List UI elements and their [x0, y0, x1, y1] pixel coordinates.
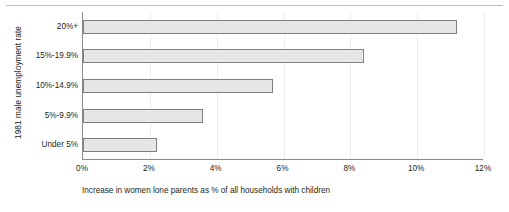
x-axis-title: Increase in women lone parents as % of a…: [82, 186, 483, 195]
plot-area: [82, 12, 483, 160]
x-axis-tick-label: 10%: [396, 163, 436, 174]
x-axis-tick-label: 12%: [463, 163, 503, 174]
x-axis-tick-label: 6%: [263, 163, 303, 174]
x-axis-tick-label: 2%: [129, 163, 169, 174]
top-divider-rule: [6, 5, 503, 6]
y-axis-tick-label: 5%-9.9%: [18, 111, 78, 121]
bars-layer: [83, 12, 483, 159]
bar: [83, 49, 364, 63]
y-axis-tick-label: Under 5%: [18, 140, 78, 150]
x-axis-tick-label: 4%: [196, 163, 236, 174]
y-axis-tick-label: 15%-19.9%: [18, 51, 78, 61]
y-axis-tick-labels: 20%+15%-19.9%10%-14.9%5%-9.9%Under 5%: [18, 12, 78, 160]
bar: [83, 138, 157, 152]
x-axis-tick-label: 8%: [329, 163, 369, 174]
bar: [83, 109, 203, 123]
y-axis-tick-label: 20%+: [18, 22, 78, 32]
bar: [83, 20, 457, 34]
x-axis-tick-labels: 0%2%4%6%8%10%12%: [82, 163, 483, 175]
gridline: [484, 12, 485, 159]
x-axis-tick-label: 0%: [62, 163, 102, 174]
bar: [83, 79, 273, 93]
bar-chart-figure: 1981 male unemployment rate 20%+15%-19.9…: [0, 0, 509, 212]
y-axis-tick-label: 10%-14.9%: [18, 81, 78, 91]
